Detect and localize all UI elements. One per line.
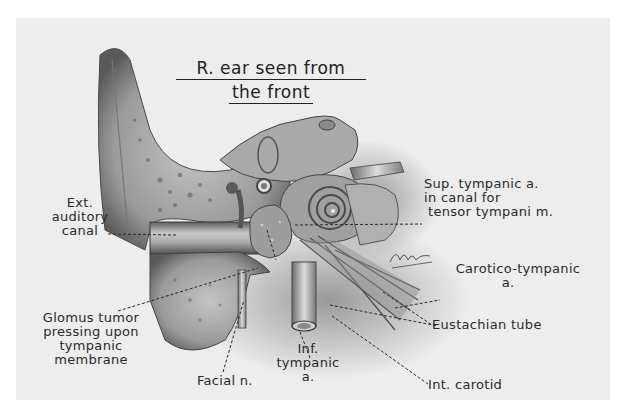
- label-carotico-tympanic-artery: Carotico-tympanic a.: [438, 262, 598, 290]
- label-sup-tympanic-artery: Sup. tympanic a. in canal for tensor tym…: [424, 177, 553, 219]
- label-glomus-tumor: Glomus tumor pressing upon tympanic memb…: [26, 311, 156, 367]
- label-inf-tympanic-artery: Inf. tympanic a.: [268, 342, 348, 384]
- label-eustachian-tube: Eustachian tube: [432, 318, 542, 332]
- label-facial-nerve: Facial n.: [197, 374, 253, 388]
- label-int-carotid: Int. carotid: [428, 378, 502, 392]
- title-line-2: the front: [229, 82, 313, 104]
- label-ext-auditory-canal: Ext. auditory canal: [40, 196, 120, 238]
- title-line-1: R. ear seen from: [176, 58, 366, 80]
- diagram-title: R. ear seen from the front: [176, 58, 366, 104]
